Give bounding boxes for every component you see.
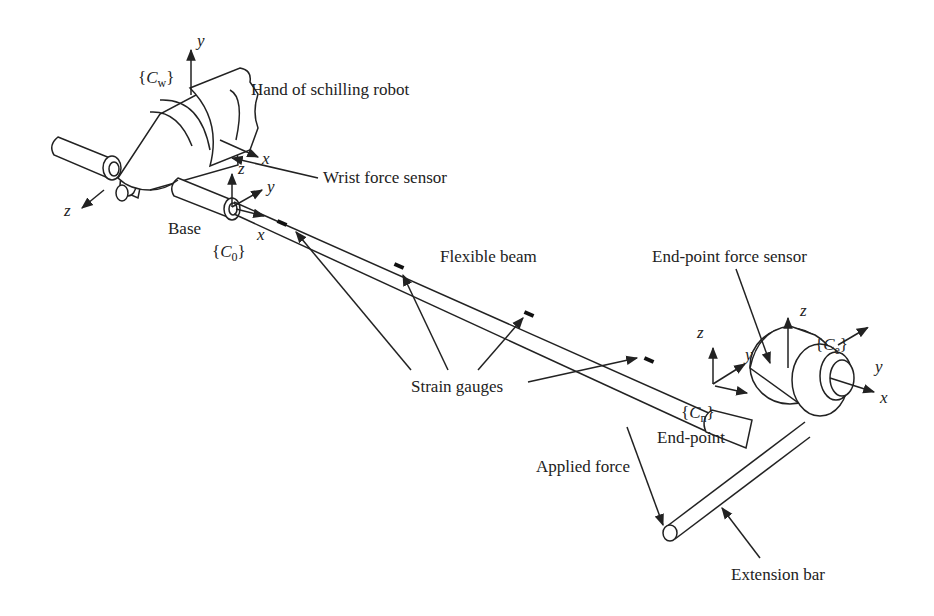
axis-x-label: x — [879, 388, 888, 407]
axis-x-label: x — [256, 225, 265, 244]
axis-z-label: z — [799, 301, 807, 320]
wrist-sensor-label: Wrist force sensor — [323, 168, 447, 187]
axis-z-label: z — [237, 159, 245, 178]
axis-y-label: y — [195, 31, 205, 50]
frame-cn-label: {Cn} — [681, 403, 715, 425]
frame-ce-label: {Ce} — [815, 335, 848, 357]
extension-bar-label: Extension bar — [731, 565, 825, 584]
axis-y-label: y — [265, 177, 275, 196]
axis-z-label: z — [63, 201, 71, 220]
robot-beam-diagram: y x z {Cw} z y x {C0} z y {Cn} z y x {Ce… — [0, 0, 934, 616]
end-point-frame-axes: z y {Cn} — [681, 323, 753, 425]
robot-hand — [52, 68, 258, 220]
end-point-sensor-label: End-point force sensor — [652, 247, 807, 266]
strain-gauge — [277, 219, 288, 227]
frame-c0-label: {C0} — [212, 242, 246, 264]
hand-label: Hand of schilling robot — [251, 80, 409, 99]
frame-cw-label: {Cw} — [138, 68, 174, 90]
end-point-label: End-point — [657, 428, 725, 447]
axis-z-label: z — [696, 323, 704, 342]
strain-gauge — [524, 310, 535, 318]
strain-gauges — [277, 219, 655, 364]
strain-gauge — [644, 356, 655, 364]
axis-y-label: y — [743, 345, 753, 364]
strain-gauges-label: Strain gauges — [411, 377, 503, 396]
flexible-beam-label: Flexible beam — [440, 247, 537, 266]
applied-force-label: Applied force — [536, 457, 630, 476]
axis-y-label: y — [873, 357, 883, 376]
leader-lines — [232, 158, 770, 558]
strain-gauge — [394, 262, 405, 270]
base-label: Base — [168, 219, 201, 238]
flexible-beam — [234, 202, 720, 434]
